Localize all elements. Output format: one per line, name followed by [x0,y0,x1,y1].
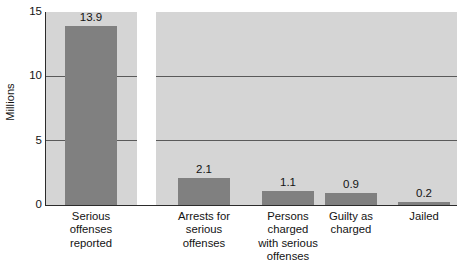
category-label-line: Guilty as [311,210,391,223]
bar-value-label-4: 0.2 [394,188,454,200]
bar-value-label-0: 13.9 [61,12,121,24]
y-axis-title: Millions [4,70,16,134]
bar-2[interactable] [262,191,314,205]
y-axis-tick-label: 15 [22,6,42,18]
category-label-line: offenses [164,237,244,250]
bar-value-label-3: 0.9 [321,179,381,191]
gridline-5-right [156,140,457,141]
category-label-line: Arrests for [164,210,244,223]
category-label-line: offenses [248,250,328,263]
category-label-line: Jailed [384,210,464,223]
bar-1[interactable] [178,178,230,205]
y-axis-line [45,12,46,206]
category-label-line: offenses [51,223,131,236]
bar-0[interactable] [65,26,117,205]
bar-3[interactable] [325,193,377,205]
category-label-1: Arrests forseriousoffenses [164,210,244,250]
y-axis-tick-label: 5 [22,135,42,147]
category-label-line: Serious [51,210,131,223]
bar-value-label-1: 2.1 [174,164,234,176]
y-axis-tick-label: 0 [22,199,42,211]
category-label-line: with serious [248,237,328,250]
category-label-3: Guilty ascharged [311,210,391,237]
category-label-4: Jailed [384,210,464,223]
category-label-line: serious [164,223,244,236]
category-label-line: charged [311,223,391,236]
y-axis-tick-label: 10 [22,70,42,82]
bar-4[interactable] [398,202,450,205]
bar-value-label-2: 1.1 [258,177,318,189]
gridline-10-right [156,76,457,77]
bar-chart: 051015 Millions 13.92.11.10.90.2 Serious… [0,0,471,271]
category-label-0: Seriousoffensesreported [51,210,131,250]
category-label-line: reported [51,237,131,250]
